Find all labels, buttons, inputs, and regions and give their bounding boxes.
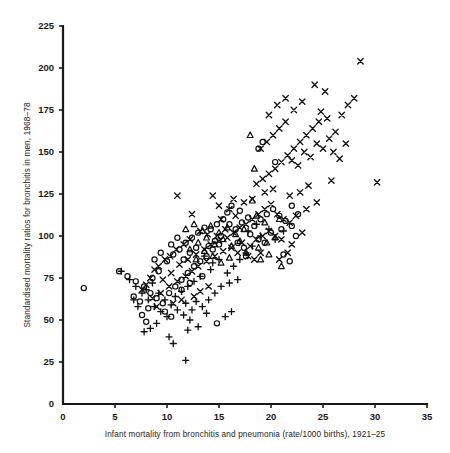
- x-tick-label: 35: [422, 411, 433, 422]
- y-tick-label: 200: [38, 62, 54, 73]
- y-tick-label: 225: [38, 20, 55, 31]
- plot-background: [0, 0, 450, 453]
- y-axis-title: Standardised mortality ratios for bronch…: [23, 102, 32, 327]
- x-tick-label: 30: [370, 411, 381, 422]
- y-tick-label: 100: [38, 230, 54, 241]
- y-tick-label: 175: [38, 104, 55, 115]
- figure-container: 051015202530350255075100125150175200225I…: [0, 0, 450, 453]
- x-tick-label: 25: [318, 411, 329, 422]
- x-tick-label: 20: [266, 411, 277, 422]
- x-axis-title: Infant mortality from bronchitis and pne…: [105, 430, 386, 439]
- y-tick-label: 75: [43, 272, 54, 283]
- x-tick-label: 0: [60, 411, 65, 422]
- scatter-plot: 051015202530350255075100125150175200225I…: [0, 0, 450, 453]
- x-tick-label: 15: [214, 411, 225, 422]
- y-tick-label: 150: [38, 146, 54, 157]
- y-tick-label: 25: [43, 356, 54, 367]
- y-tick-label: 50: [43, 314, 54, 325]
- x-tick-label: 10: [162, 411, 173, 422]
- y-tick-label: 125: [38, 188, 55, 199]
- x-tick-label: 5: [112, 411, 118, 422]
- y-tick-label: 0: [49, 398, 54, 409]
